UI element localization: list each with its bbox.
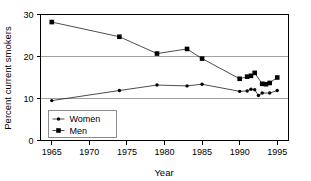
x-tick-label-1975: 1975 [117, 147, 137, 157]
x-tick-label-1995: 1995 [267, 147, 287, 157]
data-point-women-1979 [155, 83, 158, 86]
y-tick-label-20: 20 [23, 52, 33, 62]
data-point-women-1974 [118, 89, 121, 92]
data-point-men-1995 [275, 75, 280, 80]
x-axis-title: Year [154, 167, 173, 178]
data-point-women-1965 [50, 99, 53, 102]
x-tick-label-1980: 1980 [154, 147, 174, 157]
legend-label-women: Women [70, 114, 101, 124]
x-tick-label-1965: 1965 [42, 147, 62, 157]
x-tick-label-1985: 1985 [192, 147, 212, 157]
y-tick-label-10: 10 [23, 94, 33, 104]
chart-legend: WomenMen [49, 111, 117, 138]
data-point-men-1983 [185, 47, 190, 52]
chart-figure: 1965197019751980198519901995 0102030 Yea… [0, 0, 311, 181]
data-point-women-1991 [245, 89, 248, 92]
data-point-men-1965 [49, 20, 54, 25]
data-point-women-1990 [238, 90, 241, 93]
data-point-men-1994 [267, 81, 272, 86]
data-point-women-1992 [253, 88, 256, 91]
data-point-women-1992.5 [257, 94, 260, 97]
data-point-women-1985 [200, 83, 203, 86]
data-point-women-1995 [276, 89, 279, 92]
data-point-men-1992 [252, 71, 257, 76]
y-tick-label-30: 30 [23, 10, 33, 20]
data-point-men-1985 [200, 56, 205, 61]
data-point-men-1990 [237, 76, 242, 81]
data-point-women-1994 [268, 91, 271, 94]
data-point-women-1983 [185, 84, 188, 87]
data-point-women-1993 [260, 91, 263, 94]
data-point-men-1979 [155, 51, 160, 56]
y-tick-label-0: 0 [28, 136, 33, 146]
data-point-men-1974 [117, 34, 122, 39]
smoking-prevalence-line-chart: 1965197019751980198519901995 0102030 Yea… [0, 0, 311, 181]
data-point-women-1991.5 [249, 88, 252, 91]
y-axis-title: Percent current smokers [2, 26, 13, 130]
legend-marker-women [57, 117, 60, 120]
legend-label-men: Men [70, 126, 88, 136]
legend-marker-men [56, 128, 61, 133]
x-tick-label-1970: 1970 [79, 147, 99, 157]
x-tick-label-1990: 1990 [230, 147, 250, 157]
